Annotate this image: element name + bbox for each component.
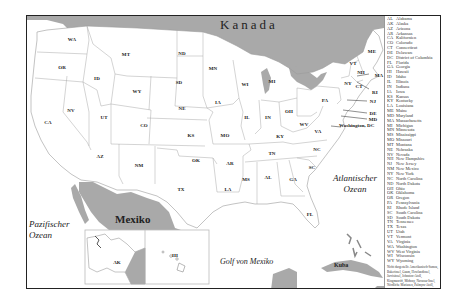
state-label-ri: RI: [372, 90, 378, 95]
pacific-ocean-line1: Pazifischer: [29, 219, 70, 230]
legend-state-name: Oregon: [396, 196, 409, 200]
legend-state-name: Massachusetts: [396, 119, 421, 123]
pacific-ocean-line2: Ozean: [29, 230, 70, 241]
pacific-ocean-label: Pazifischer Ozean: [29, 219, 70, 241]
legend-state-name: Oklahoma: [396, 191, 414, 195]
state-label-ms: MS: [242, 177, 250, 182]
legend-state-name: Delaware: [396, 51, 413, 55]
state-label-nv: NV: [67, 108, 74, 113]
state-label-az: AZ: [96, 154, 103, 159]
atlantic-ocean-label: Atlantischer Ozean: [333, 173, 377, 195]
legend-state-name: New Mexico: [396, 167, 419, 171]
state-label-va: VA: [315, 129, 322, 134]
mexico-label: Mexiko: [115, 213, 150, 225]
legend-state-name: Nevada: [396, 153, 409, 157]
washington-dc-label: Washington, DC: [339, 123, 374, 128]
legend-note: Nicht dargestellt: Amerikanisch-Samoa,Ba…: [387, 265, 441, 289]
legend-state-name: District of Columbia: [396, 56, 432, 60]
state-label-ky: KY: [276, 134, 284, 139]
legend-state-name: Texas: [396, 225, 406, 229]
state-label-mn: MN: [209, 66, 218, 71]
legend-state-name: Montana: [396, 143, 412, 147]
state-label-de: DE: [369, 111, 376, 116]
gulf-of-mexico-label: Golf von Mexiko: [220, 257, 273, 266]
state-label-wy: WY: [133, 89, 142, 94]
state-label-md: MD: [369, 117, 378, 122]
state-label-ut: UT: [100, 115, 107, 120]
legend-state-name: Arkansas: [396, 32, 412, 36]
legend-state-name: Kentucky: [396, 99, 413, 103]
legend-state-name: New Jersey: [396, 162, 416, 166]
state-legend: ALAlabamaAKAlaskaAZArizonaARArkansasCAKa…: [384, 16, 441, 289]
atlantic-ocean-line2: Ozean: [333, 184, 377, 195]
state-label-or: OR: [58, 65, 66, 70]
legend-state-name: Virginia: [396, 240, 410, 244]
atlantic-ocean-line1: Atlantischer: [333, 173, 377, 184]
cuba-island: [321, 260, 383, 278]
state-label-ar: AR: [226, 161, 233, 166]
legend-state-name: Indiana: [396, 85, 409, 89]
map-graphic: [27, 16, 441, 289]
canada-label: Kanada: [220, 17, 278, 33]
state-label-ok: OK: [192, 158, 200, 163]
state-label-la: LA: [224, 187, 231, 192]
legend-state-name: South Dakota: [396, 216, 420, 220]
legend-abbr: WY: [387, 259, 396, 264]
legend-state-name: Alaska: [396, 22, 408, 26]
legend-note-line: Nicht dargestellt: Amerikanisch-Samoa,: [387, 265, 441, 270]
legend-state-name: Minnesota: [396, 128, 415, 132]
state-label-pa: PA: [322, 98, 329, 103]
state-label-tn: TN: [268, 151, 275, 156]
state-label-ks: KS: [188, 133, 195, 138]
state-label-mo: MO: [221, 133, 230, 138]
legend-state-name: Pennsylvania: [396, 201, 419, 205]
legend-state-name: Colorado: [396, 41, 412, 45]
legend-state-name: Utah: [396, 230, 405, 234]
legend-state-name: Louisiana: [396, 104, 413, 108]
legend-state-name: Michigan: [396, 124, 413, 128]
legend-state-name: Kalifornien: [396, 36, 416, 40]
state-label-nd: ND: [178, 51, 185, 56]
legend-state-name: Mississippi: [396, 133, 416, 137]
state-label-me: ME: [368, 49, 376, 54]
legend-state-name: South Carolina: [396, 211, 422, 215]
state-label-al: AL: [264, 175, 271, 180]
state-label-ga: GA: [289, 177, 297, 182]
legend-state-name: North Carolina: [396, 177, 422, 181]
legend-state-name: Georgia: [396, 65, 410, 69]
legend-state-name: New York: [396, 172, 414, 176]
state-label-vt: VT: [349, 61, 356, 66]
legend-state-name: Alabama: [396, 17, 412, 21]
state-label-oh: OH: [285, 109, 293, 114]
state-label-wv: WV: [300, 122, 309, 127]
state-label-nh: NH: [357, 70, 365, 75]
legend-state-name: Ohio: [396, 187, 405, 191]
legend-state-name: Wyoming: [396, 259, 413, 263]
legend-state-name: Florida: [396, 61, 409, 65]
legend-state-name: Iowa: [396, 90, 405, 94]
state-label-mt: MT: [122, 52, 130, 57]
state-label-sd: SD: [176, 80, 183, 85]
legend-list: ALAlabamaAKAlaskaAZArizonaARArkansasCAKa…: [387, 17, 441, 264]
state-label-sc: SC: [309, 165, 316, 170]
state-label-ny: NY: [344, 81, 351, 86]
legend-state-name: Missouri: [396, 138, 412, 142]
state-label-il: IL: [244, 115, 249, 120]
state-label-ct: CT: [355, 84, 362, 89]
legend-state-name: Idaho: [396, 75, 406, 79]
legend-state-name: Wisconsin: [396, 254, 414, 258]
legend-state-name: Arizona: [396, 27, 410, 31]
state-label-nj: NJ: [370, 99, 376, 104]
state-label-mi: MI: [269, 79, 276, 84]
state-label-co: CO: [140, 123, 148, 128]
state-label-id: ID: [94, 76, 100, 81]
state-label-ia: IA: [215, 100, 221, 105]
legend-state-name: Connecticut: [396, 46, 417, 50]
state-label-ak: AK: [113, 260, 121, 265]
state-label-tx: TX: [177, 187, 184, 192]
state-label-in: IN: [265, 115, 271, 120]
legend-state-name: Hawaii: [396, 70, 409, 74]
yucatan: [271, 268, 297, 289]
legend-item: WYWyoming: [387, 259, 441, 264]
state-label-nc: NC: [313, 147, 320, 152]
